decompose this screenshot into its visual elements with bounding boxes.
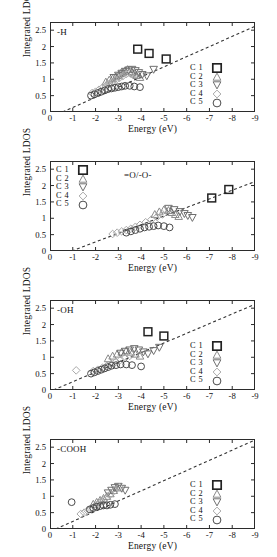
- legend-item-label: C 5: [56, 200, 75, 209]
- x-tick-label: -3: [107, 114, 129, 123]
- x-tick-label: -9: [244, 392, 266, 401]
- x-tick-label: -1: [62, 253, 84, 262]
- legend-item: C 5: [190, 98, 225, 107]
- panel-OH: Integrated LDOS00.511.522.50-1-2-3-4-5-6…: [0, 278, 277, 417]
- x-tick-label: -3: [107, 253, 129, 262]
- x-tick-label: -1: [62, 114, 84, 123]
- x-tick-label: -7: [198, 253, 220, 262]
- x-tick-label: -5: [153, 253, 175, 262]
- panel-label: =O/-O-: [124, 170, 152, 180]
- legend-item-label: C 5: [190, 376, 209, 385]
- x-tick-label: -1: [62, 392, 84, 401]
- x-tick-label: -4: [130, 114, 152, 123]
- x-tick-label: -9: [244, 531, 266, 540]
- x-tick-label: 0: [39, 392, 61, 401]
- x-tick-label: -4: [130, 392, 152, 401]
- panel-label: -OH: [57, 305, 74, 315]
- x-axis-label: Energy (eV): [50, 263, 255, 273]
- legend-item: C 5: [190, 376, 225, 385]
- x-tick-label: 0: [39, 531, 61, 540]
- x-tick-label: -6: [176, 531, 198, 540]
- panel-O: Integrated LDOS00.511.522.50-1-2-3-4-5-6…: [0, 139, 277, 278]
- legend: C 1C 2C 3C 4C 5: [190, 342, 225, 385]
- panel-label: -H: [57, 27, 67, 37]
- circle-marker: [75, 200, 91, 210]
- x-tick-label: -3: [107, 392, 129, 401]
- x-tick-label: -6: [176, 392, 198, 401]
- circle-marker: [209, 515, 225, 525]
- x-tick-label: -8: [221, 114, 243, 123]
- x-tick-label: -5: [153, 114, 175, 123]
- x-tick-label: -3: [107, 531, 129, 540]
- panel-label: -COOH: [57, 444, 87, 454]
- x-axis-label: Energy (eV): [50, 124, 255, 134]
- x-tick-label: -2: [85, 392, 107, 401]
- x-tick-label: -8: [221, 531, 243, 540]
- x-tick-label: -7: [198, 392, 220, 401]
- x-tick-label: -4: [130, 531, 152, 540]
- x-tick-label: -2: [85, 253, 107, 262]
- legend: C 1C 2C 3C 4C 5: [56, 166, 91, 209]
- x-axis-label: Energy (eV): [50, 402, 255, 412]
- x-tick-label: -8: [221, 392, 243, 401]
- x-axis-label: Energy (eV): [50, 541, 255, 551]
- x-tick-label: -9: [244, 114, 266, 123]
- x-tick-label: -1: [62, 531, 84, 540]
- x-tick-label: -7: [198, 531, 220, 540]
- x-tick-label: -2: [85, 531, 107, 540]
- x-tick-label: -9: [244, 253, 266, 262]
- circle-marker: [209, 376, 225, 386]
- legend-item: C 5: [56, 200, 91, 209]
- x-tick-label: -5: [153, 392, 175, 401]
- legend-item-label: C 5: [190, 515, 209, 524]
- x-tick-label: -6: [176, 114, 198, 123]
- legend: C 1C 2C 3C 4C 5: [190, 64, 225, 107]
- x-tick-label: -2: [85, 114, 107, 123]
- legend: C 1C 2C 3C 4C 5: [190, 481, 225, 524]
- legend-item: C 5: [190, 515, 225, 524]
- panel-H: Integrated LDOS00.511.522.50-1-2-3-4-5-6…: [0, 0, 277, 139]
- ldos-energy-figure: Integrated LDOS00.511.522.50-1-2-3-4-5-6…: [0, 0, 277, 557]
- x-tick-label: -7: [198, 114, 220, 123]
- x-tick-label: -8: [221, 253, 243, 262]
- x-tick-label: -5: [153, 531, 175, 540]
- circle-marker: [209, 98, 225, 108]
- x-tick-label: -4: [130, 253, 152, 262]
- legend-item-label: C 5: [190, 98, 209, 107]
- x-tick-label: -6: [176, 253, 198, 262]
- panel-COOH: Integrated LDOS00.511.522.50-1-2-3-4-5-6…: [0, 417, 277, 556]
- x-tick-label: 0: [39, 253, 61, 262]
- x-tick-label: 0: [39, 114, 61, 123]
